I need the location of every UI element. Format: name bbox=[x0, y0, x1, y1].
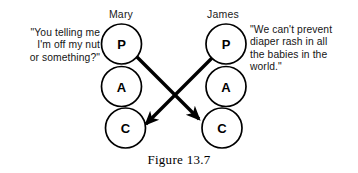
ego-state-label-mary-child: C bbox=[121, 121, 131, 136]
figure-caption: Figure 13.7 bbox=[0, 152, 358, 168]
ego-state-label-mary-parent: P bbox=[117, 37, 126, 52]
arrow-james-parent-to-mary-child bbox=[146, 55, 215, 124]
ego-state-label-james-parent: P bbox=[222, 37, 231, 52]
ego-state-label-james-child: C bbox=[217, 121, 227, 136]
ego-state-label-james-adult: A bbox=[221, 80, 231, 95]
figure-container: Mary James "You telling me I'm off my nu… bbox=[0, 0, 358, 173]
transaction-arrows bbox=[135, 55, 215, 124]
ego-state-column-mary: P A C bbox=[102, 24, 146, 148]
ego-state-label-mary-adult: A bbox=[117, 80, 127, 95]
ego-state-diagram: P A C P A C bbox=[0, 0, 358, 173]
ego-state-column-james: P A C bbox=[202, 24, 246, 148]
arrow-mary-parent-to-james-child bbox=[135, 55, 199, 119]
